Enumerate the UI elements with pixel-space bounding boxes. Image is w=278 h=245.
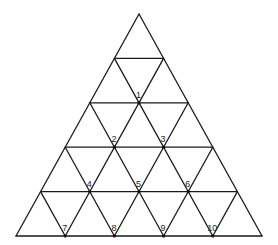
vertex-dot: [88, 190, 91, 193]
vertex-dot: [64, 234, 67, 237]
vertex-label-4: 4: [87, 179, 92, 189]
vertex-label-8: 8: [111, 223, 116, 233]
vertex-dot: [162, 234, 165, 237]
grid-edges: [16, 14, 262, 236]
vertex-dots: [64, 101, 215, 237]
vertex-label-7: 7: [62, 223, 67, 233]
vertex-dot: [113, 146, 116, 149]
diagonal-edge-right: [139, 14, 262, 236]
vertex-dot: [137, 101, 140, 104]
vertex-dot: [187, 190, 190, 193]
diagonal-edge-left: [16, 14, 139, 236]
vertex-label-9: 9: [161, 223, 166, 233]
vertex-label-1: 1: [136, 90, 141, 100]
vertex-label-3: 3: [161, 134, 166, 144]
diagonal-edge-right: [90, 103, 164, 236]
vertex-label-10: 10: [207, 223, 217, 233]
vertex-dot: [211, 234, 214, 237]
vertex-label-2: 2: [111, 134, 116, 144]
vertex-label-5: 5: [136, 179, 141, 189]
vertex-label-6: 6: [185, 179, 190, 189]
vertex-dot: [162, 146, 165, 149]
diagonal-edge-left: [114, 103, 188, 236]
grid-canvas: 12345678910: [0, 0, 278, 245]
triangular-grid-diagram: 12345678910: [0, 0, 278, 245]
vertex-dot: [137, 190, 140, 193]
vertex-dot: [113, 234, 116, 237]
